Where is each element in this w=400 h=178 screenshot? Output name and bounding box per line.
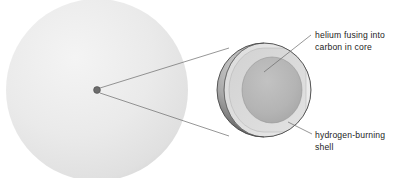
helium-carbon-core	[242, 57, 302, 123]
magnified-core-group	[217, 43, 311, 137]
helium-core-label-line2: carbon in core	[315, 42, 372, 52]
diagram-canvas: helium fusing into carbon in core hydrog…	[0, 0, 400, 178]
helium-core-label-line1: helium fusing into	[315, 30, 385, 40]
hydrogen-shell-label-line2: shell	[315, 142, 334, 152]
hydrogen-shell-label: hydrogen-burning shell	[315, 130, 388, 152]
hydrogen-shell-label-line1: hydrogen-burning	[315, 130, 385, 140]
helium-core-label: helium fusing into carbon in core	[315, 30, 388, 52]
star-structure-diagram: helium fusing into carbon in core hydrog…	[0, 0, 400, 178]
core-point-dot	[94, 87, 101, 94]
